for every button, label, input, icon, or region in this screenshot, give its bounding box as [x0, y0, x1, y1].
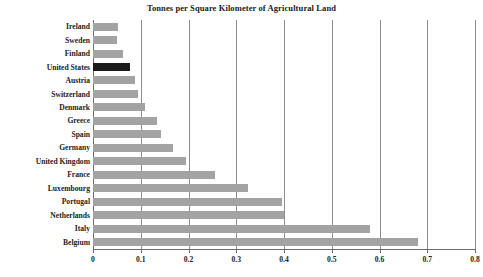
bar-row: [93, 20, 475, 33]
x-tick-label-0.6: 0.6: [360, 255, 400, 264]
gridline-0.8: [475, 20, 476, 249]
bar-belgium: [93, 238, 418, 246]
category-label-spain: Spain: [0, 130, 90, 139]
category-label-finland: Finland: [0, 49, 90, 58]
x-tick-label-0.3: 0.3: [216, 255, 256, 264]
bar-france: [93, 171, 215, 179]
bar-row: [93, 101, 475, 114]
category-label-luxembourg: Luxembourg: [0, 184, 90, 193]
bar-greece: [93, 117, 157, 125]
bar-luxembourg: [93, 184, 248, 192]
x-tick-label-0.2: 0.2: [169, 255, 209, 264]
bar-austria: [93, 76, 135, 84]
bar-row: [93, 182, 475, 195]
bar-row: [93, 168, 475, 181]
category-label-belgium: Belgium: [0, 238, 90, 247]
x-tick-0.8: [475, 249, 476, 253]
chart-title: Tonnes per Square Kilometer of Agricultu…: [0, 3, 483, 13]
category-label-united-states: United States: [0, 63, 90, 72]
bar-spain: [93, 130, 161, 138]
category-label-greece: Greece: [0, 116, 90, 125]
x-tick-0.1: [141, 249, 142, 253]
bar-row: [93, 33, 475, 46]
category-label-netherlands: Netherlands: [0, 211, 90, 220]
bar-italy: [93, 225, 370, 233]
category-label-italy: Italy: [0, 224, 90, 233]
bar-sweden: [93, 36, 117, 44]
bar-finland: [93, 50, 123, 58]
bar-row: [93, 155, 475, 168]
bar-row: [93, 128, 475, 141]
bar-row: [93, 222, 475, 235]
plot-area: [93, 20, 475, 249]
bar-row: [93, 114, 475, 127]
bar-chart: Tonnes per Square Kilometer of Agricultu…: [0, 0, 483, 277]
bar-row: [93, 141, 475, 154]
x-tick-0.6: [380, 249, 381, 253]
bar-row: [93, 87, 475, 100]
category-label-austria: Austria: [0, 76, 90, 85]
bar-series: [93, 20, 475, 249]
bar-row: [93, 236, 475, 249]
bar-united-states: [93, 63, 130, 71]
bar-row: [93, 60, 475, 73]
bar-ireland: [93, 23, 118, 31]
category-label-denmark: Denmark: [0, 103, 90, 112]
category-label-sweden: Sweden: [0, 36, 90, 45]
x-tick-0.7: [427, 249, 428, 253]
x-tick-label-0.5: 0.5: [312, 255, 352, 264]
x-tick-0.3: [236, 249, 237, 253]
bar-united-kingdom: [93, 157, 186, 165]
bar-portugal: [93, 198, 282, 206]
category-label-ireland: Ireland: [0, 22, 90, 31]
x-tick-label-0: 0: [73, 255, 113, 264]
x-tick-0.5: [332, 249, 333, 253]
category-label-switzerland: Switzerland: [0, 90, 90, 99]
x-tick-label-0.8: 0.8: [455, 255, 483, 264]
x-tick-label-0.1: 0.1: [121, 255, 161, 264]
category-label-france: France: [0, 170, 90, 179]
category-axis-labels: IrelandSwedenFinlandUnited StatesAustria…: [0, 20, 90, 249]
x-tick-label-0.4: 0.4: [264, 255, 304, 264]
bar-row: [93, 209, 475, 222]
category-label-united-kingdom: United Kingdom: [0, 157, 90, 166]
bar-netherlands: [93, 211, 284, 219]
category-label-portugal: Portugal: [0, 197, 90, 206]
x-tick-label-0.7: 0.7: [407, 255, 447, 264]
bar-germany: [93, 144, 173, 152]
bar-row: [93, 47, 475, 60]
x-tick-0.4: [284, 249, 285, 253]
bar-row: [93, 74, 475, 87]
x-tick-0.2: [189, 249, 190, 253]
bar-denmark: [93, 103, 145, 111]
bar-row: [93, 195, 475, 208]
x-tick-0: [93, 249, 94, 253]
bar-switzerland: [93, 90, 138, 98]
category-label-germany: Germany: [0, 143, 90, 152]
